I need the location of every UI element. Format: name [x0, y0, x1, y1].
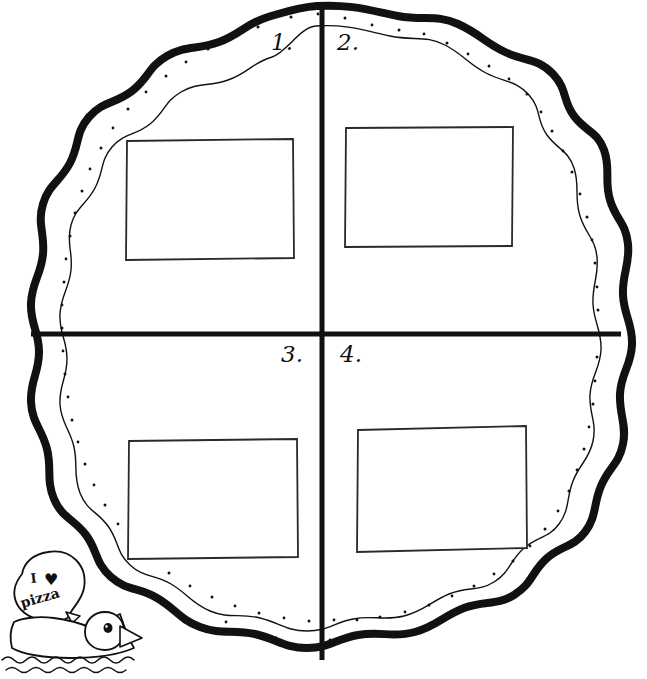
- duck-mascot-group: I ♥ pizza: [2, 551, 142, 672]
- answer-box-2[interactable]: [345, 127, 513, 247]
- duck-eye-highlight: [105, 625, 107, 628]
- answer-box-1[interactable]: [126, 139, 294, 260]
- worksheet-canvas: 1. 2. 3. 4. I ♥ pizza: [0, 0, 647, 679]
- quadrant-label-1: 1.: [271, 29, 293, 55]
- answer-box-3[interactable]: [128, 439, 298, 559]
- duck-eye: [104, 623, 113, 633]
- water-line-secondary: [6, 668, 126, 673]
- quadrant-label-2: 2.: [336, 29, 359, 55]
- pizza-crust-group: [31, 6, 632, 648]
- pizza-worksheet-page: 1. 2. 3. 4. I ♥ pizza: [0, 0, 647, 679]
- answer-box-4[interactable]: [357, 426, 527, 552]
- quadrant-label-3: 3.: [281, 341, 303, 367]
- pizza-crust-outer-edge: [31, 6, 632, 648]
- quadrant-label-4: 4.: [339, 341, 362, 367]
